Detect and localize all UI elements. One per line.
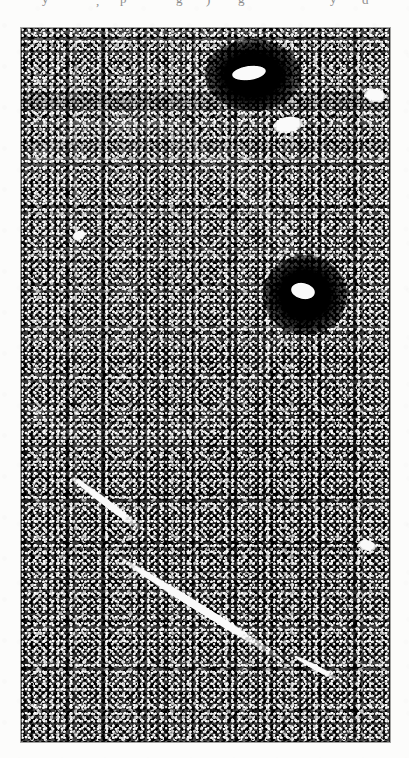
dark-halo-middle (263, 255, 347, 335)
dark-halo-middle-core (290, 281, 317, 302)
bright-patch-lower-right (357, 537, 377, 552)
grain-light-fine (21, 28, 390, 742)
track-streak-short (292, 653, 342, 683)
grain-light-coarse (21, 28, 390, 742)
plate-border (21, 28, 390, 742)
track-streak-upper (68, 472, 149, 535)
text-descender-fragment: y (330, 0, 337, 5)
text-descender-fragment: p (120, 0, 127, 5)
grain-dark-medium (21, 28, 390, 742)
grain-light-medium (21, 28, 390, 742)
track-streak-main (113, 552, 292, 668)
bright-blob-upper (272, 115, 304, 136)
text-descender-fragment: d (362, 0, 369, 6)
grain-clumping (21, 28, 390, 742)
bright-patch-right-edge (363, 87, 387, 103)
micrograph-plate (21, 28, 390, 742)
text-descender-fragment: ) (206, 0, 210, 6)
grain-dark-fine (21, 28, 390, 742)
halftone-striation (21, 28, 390, 742)
grain-dark-coarse (21, 28, 390, 742)
text-descender-fragment: g (238, 0, 245, 5)
scanned-page: y,pg)gyd (0, 0, 409, 758)
plate-base-tone (21, 28, 390, 742)
bright-patch-mid-left (71, 228, 87, 242)
dark-halo-upper-core (231, 64, 267, 83)
text-descender-fragment: y (42, 0, 49, 5)
scan-band-lower (21, 140, 390, 150)
text-descender-fragment: g (176, 0, 183, 5)
cropped-text-remnant: y,pg)gyd (0, 0, 409, 20)
text-descender-fragment: , (96, 0, 99, 7)
scan-band-upper (21, 92, 390, 110)
dark-halo-upper (205, 39, 301, 111)
plate-features (21, 28, 390, 742)
lighter-arc-artifact (21, 118, 293, 450)
